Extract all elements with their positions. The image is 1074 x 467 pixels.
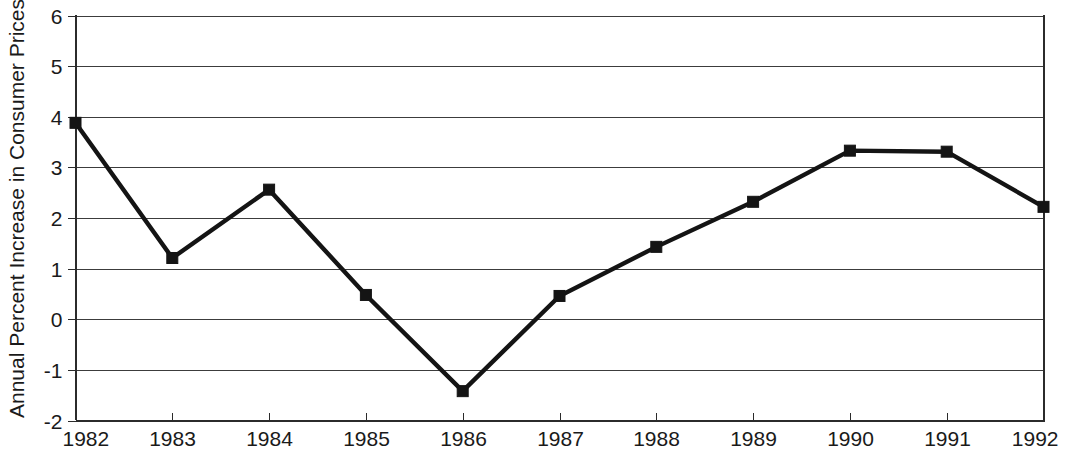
data-point-marker xyxy=(651,241,662,252)
y-tick-label: 3 xyxy=(51,156,63,179)
x-tick-label: 1991 xyxy=(924,427,971,450)
x-tick-labels-group: 1982198319841985198619871988198919901991… xyxy=(63,427,1059,450)
y-tick-labels-group: 6543210-1-2 xyxy=(44,5,63,433)
data-point-marker xyxy=(264,184,275,195)
y-tick-label: 2 xyxy=(51,207,63,230)
x-tick-label: 1989 xyxy=(730,427,777,450)
data-point-marker xyxy=(554,290,565,301)
series-line-consumer-prices xyxy=(76,123,1044,391)
data-markers-group xyxy=(70,117,1049,396)
data-point-marker xyxy=(167,252,178,263)
data-point-marker xyxy=(941,146,952,157)
x-tick-label: 1990 xyxy=(827,427,874,450)
x-tick-label: 1992 xyxy=(1012,427,1059,450)
x-tick-label: 1988 xyxy=(633,427,680,450)
data-point-marker xyxy=(457,386,468,397)
data-point-marker xyxy=(748,196,759,207)
x-tick-label: 1983 xyxy=(149,427,196,450)
line-chart: 6543210-1-2 1982198319841985198619871988… xyxy=(0,0,1074,467)
x-tick-label: 1985 xyxy=(343,427,390,450)
data-point-marker xyxy=(1038,201,1049,212)
chart-container: 6543210-1-2 1982198319841985198619871988… xyxy=(0,0,1074,467)
x-tick-label: 1982 xyxy=(63,427,110,450)
x-tick-label: 1987 xyxy=(537,427,584,450)
y-tick-label: 1 xyxy=(51,258,63,281)
data-point-marker xyxy=(360,289,371,300)
y-tick-marks-group xyxy=(68,17,76,422)
y-tick-label: 4 xyxy=(51,106,63,129)
y-tick-label: 0 xyxy=(51,308,63,331)
y-tick-label: 6 xyxy=(51,5,63,28)
x-tick-label: 1984 xyxy=(246,427,293,450)
data-point-marker xyxy=(70,117,81,128)
y-tick-label: -2 xyxy=(44,410,63,433)
y-tick-label: -1 xyxy=(44,359,63,382)
x-tick-label: 1986 xyxy=(440,427,487,450)
data-point-marker xyxy=(844,145,855,156)
y-axis-title: Annual Percent Increase in Consumer Pric… xyxy=(5,0,28,418)
gridlines-group xyxy=(76,17,1044,422)
y-tick-label: 5 xyxy=(51,55,63,78)
